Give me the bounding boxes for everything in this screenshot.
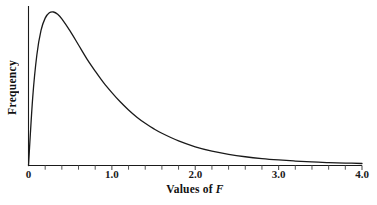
x-axis-title: Values of F <box>166 183 223 195</box>
x-axis-tick-label: 3.0 <box>272 168 286 180</box>
x-axis-tick-label: 4.0 <box>355 168 369 180</box>
y-axis-title: Frequency <box>6 60 22 115</box>
x-axis-title-variable: F <box>216 183 224 195</box>
density-curve-path <box>29 12 363 166</box>
x-axis-major-ticks <box>112 166 362 171</box>
x-axis-tick-label: 2.0 <box>188 168 202 180</box>
x-axis-title-prefix: Values of <box>166 183 216 195</box>
chart-figure: 01.02.03.04.0 Values of F Frequency <box>0 0 377 205</box>
x-axis-tick-label: 0 <box>26 168 32 180</box>
x-axis-tick-label: 1.0 <box>105 168 119 180</box>
